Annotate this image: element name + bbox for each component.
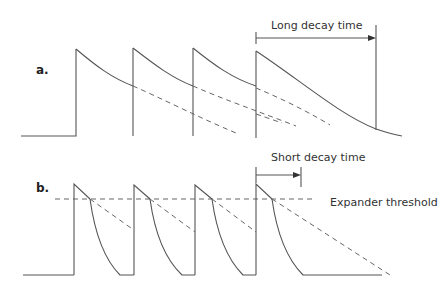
- panel-b-pulse-2-tail: [150, 199, 195, 232]
- panel-b-pulse-1-decay: [90, 199, 134, 275]
- panel-b-pulse-3-tail: [212, 199, 256, 232]
- panel-b-pulse-4-tail: [272, 199, 390, 275]
- panel-b-pulse-3-decay: [212, 199, 256, 275]
- panel-b-label: b.: [36, 181, 49, 195]
- expander-threshold-label: Expander threshold: [330, 196, 438, 209]
- arrowhead-icon: [368, 35, 376, 41]
- expander-decay-diagram: a. Long decay time b. Expander threshold: [0, 0, 448, 294]
- panel-a: a. Long decay time: [21, 19, 402, 138]
- panel-b: b. Expander threshold Short decay time: [23, 151, 438, 275]
- panel-a-pulse-2-decay: [133, 48, 193, 86]
- panel-a-pulse-4-decay: [256, 51, 402, 136]
- panel-a-pulse-1-tail: [133, 86, 236, 133]
- panel-a-pulse-3-tail: [256, 88, 330, 125]
- short-decay-label: Short decay time: [271, 151, 366, 164]
- panel-b-pulse-4: [256, 184, 272, 275]
- long-decay-label: Long decay time: [271, 19, 363, 32]
- panel-a-label: a.: [36, 63, 49, 77]
- panel-a-pulse-2-tail: [193, 86, 296, 126]
- panel-b-pulse-1-tail: [90, 199, 131, 228]
- panel-b-pulse-2-decay: [150, 199, 195, 275]
- panel-b-pulse-1: [74, 184, 90, 275]
- arrowhead-icon: [293, 172, 301, 178]
- panel-b-pulse-4-decay: [272, 199, 382, 275]
- panel-a-pulse-1-decay: [76, 49, 133, 86]
- panel-a-pulse-3-decay: [193, 48, 256, 86]
